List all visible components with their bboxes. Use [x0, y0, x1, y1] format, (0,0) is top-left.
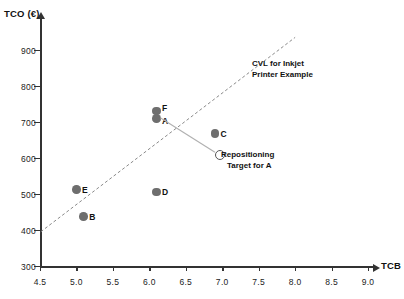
x-tick-mark — [259, 266, 260, 271]
x-tick-label: 6.5 — [173, 277, 199, 287]
data-point-label-a: A — [162, 116, 168, 126]
x-tick-mark — [332, 266, 333, 271]
x-tick-mark — [149, 266, 150, 271]
y-tick-mark — [34, 230, 40, 231]
data-point-e[interactable] — [72, 185, 81, 194]
y-tick-label: 700 — [8, 118, 36, 128]
x-tick-label: 4.5 — [27, 277, 53, 287]
data-point-label-d: D — [162, 187, 168, 197]
y-tick-mark — [34, 86, 40, 87]
y-tick-label: 300 — [8, 262, 36, 272]
repositioning-annotation-line1: Repositioning — [221, 150, 274, 161]
x-tick-mark — [113, 266, 114, 271]
x-tick-label: 8.5 — [319, 277, 345, 287]
x-tick-label: 6.0 — [136, 277, 162, 287]
x-axis-title: TCB — [381, 260, 401, 271]
y-tick-label: 800 — [8, 82, 36, 92]
x-tick-mark — [40, 266, 41, 271]
data-point-d[interactable] — [152, 188, 161, 197]
data-point-label-e: E — [82, 185, 88, 195]
x-tick-label: 9.0 — [355, 277, 381, 287]
cvl-annotation-line2: Printer Example — [252, 70, 313, 81]
y-tick-label: 500 — [8, 190, 36, 200]
x-tick-mark — [295, 266, 296, 271]
x-tick-label: 8.0 — [282, 277, 308, 287]
x-tick-mark — [186, 266, 187, 271]
x-tick-label: 5.5 — [100, 277, 126, 287]
data-point-label-b: B — [89, 212, 95, 222]
cvl-annotation: CVL for Inkjet Printer Example — [252, 59, 313, 80]
y-tick-label: 600 — [8, 154, 36, 164]
repositioning-annotation: Repositioning Target for A — [221, 150, 274, 171]
data-point-label-f: F — [162, 103, 167, 113]
y-tick-label: 900 — [8, 46, 36, 56]
cvl-annotation-line1: CVL for Inkjet — [252, 59, 313, 70]
y-tick-mark — [34, 50, 40, 51]
chart-lines-overlay — [0, 0, 404, 299]
y-tick-mark — [34, 158, 40, 159]
data-point-c[interactable] — [211, 129, 220, 138]
data-point-a[interactable] — [152, 114, 161, 123]
x-tick-mark — [222, 266, 223, 271]
x-axis-line — [40, 266, 375, 268]
data-point-b[interactable] — [79, 212, 88, 221]
x-tick-label: 7.5 — [246, 277, 272, 287]
scatter-chart: TCO (€) TCB 900 800 700 600 500 400 300 … — [0, 0, 404, 299]
repositioning-connector-line — [160, 118, 215, 153]
y-tick-label: 400 — [8, 226, 36, 236]
x-tick-mark — [368, 266, 369, 271]
x-tick-label: 5.0 — [63, 277, 89, 287]
x-tick-mark — [76, 266, 77, 271]
y-tick-mark — [34, 122, 40, 123]
y-axis-title: TCO (€) — [4, 8, 40, 19]
x-tick-label: 7.0 — [209, 277, 235, 287]
y-tick-mark — [34, 194, 40, 195]
repositioning-annotation-line2: Target for A — [221, 161, 274, 172]
y-axis-line — [40, 18, 42, 268]
data-point-label-c: C — [220, 129, 226, 139]
x-axis-arrow-icon — [373, 264, 380, 272]
